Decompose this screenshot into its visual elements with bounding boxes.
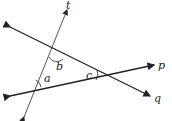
label-angle-b: b (56, 60, 63, 73)
label-angle-c: c (86, 69, 92, 82)
transversal-diagram: t q p a b c (0, 0, 172, 121)
label-p: p (158, 59, 165, 72)
line-q (10, 27, 150, 96)
label-angle-a: a (44, 72, 51, 85)
label-q: q (154, 92, 161, 105)
line-p (10, 65, 154, 96)
label-t: t (66, 0, 71, 12)
angle-arc-c (96, 70, 98, 80)
